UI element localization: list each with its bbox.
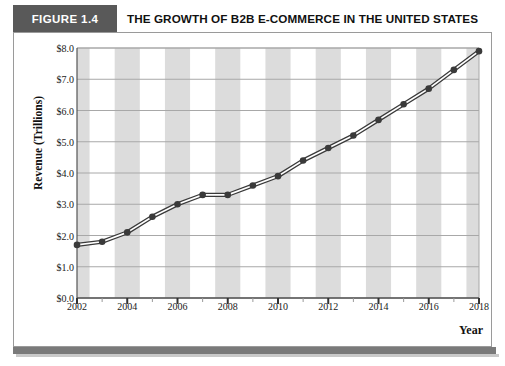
chart-body: Revenue (Trillions) Year $0.0$1.0$2.0$3.… [14, 33, 491, 346]
bottom-accent-bar [13, 347, 496, 354]
figure-card: FIGURE 1.4 THE GROWTH OF B2B E-COMMERCE … [0, 0, 505, 366]
line-chart-svg [14, 33, 491, 346]
figure-title: THE GROWTH OF B2B E-COMMERCE IN THE UNIT… [117, 5, 492, 32]
figure-number-tag: FIGURE 1.4 [13, 5, 117, 32]
bottom-accent-shadow [16, 354, 499, 357]
plot-area [14, 33, 491, 346]
figure-header: FIGURE 1.4 THE GROWTH OF B2B E-COMMERCE … [13, 5, 492, 33]
